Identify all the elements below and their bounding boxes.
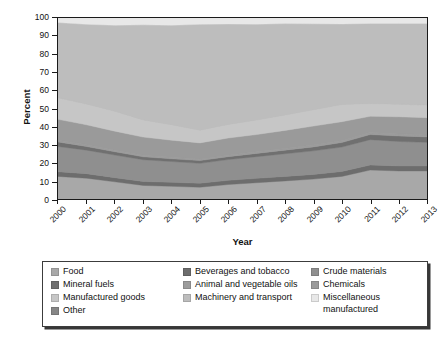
y-tick-label: 90	[40, 31, 49, 40]
y-tick-label: 10	[40, 177, 49, 186]
legend-label: Machinery and transport	[195, 292, 292, 304]
legend-label: Animal and vegetable oils	[195, 279, 298, 291]
x-tick-label: 2011	[355, 204, 382, 231]
legend-label: Chemicals	[323, 279, 365, 291]
legend-label: Mineral fuels	[63, 279, 114, 291]
legend: FoodMineral fuelsManufactured goodsOther…	[42, 261, 428, 327]
legend-swatch	[311, 294, 319, 302]
legend-label: Other	[63, 305, 86, 317]
y-axis-tick-labels: 0102030405060708090100	[24, 17, 52, 200]
x-tick-label: 2013	[412, 204, 439, 231]
y-tick-label: 40	[40, 123, 49, 132]
legend-swatch	[51, 307, 59, 315]
legend-item[interactable]: Animal and vegetable oils	[183, 279, 298, 291]
legend-item[interactable]: Crude materials	[311, 266, 387, 278]
y-tick-label: 60	[40, 86, 49, 95]
y-tick-label: 30	[40, 141, 49, 150]
x-tick-label: 2001	[70, 204, 97, 231]
plot-area	[57, 17, 428, 200]
legend-swatch	[183, 281, 191, 289]
legend-swatch	[51, 268, 59, 276]
legend-item[interactable]: Food	[51, 266, 84, 278]
legend-item[interactable]: Machinery and transport	[183, 292, 292, 304]
legend-swatch	[311, 268, 319, 276]
chart-page: Percent 0102030405060708090100 200020012…	[0, 0, 444, 355]
y-tick-label: 50	[40, 104, 49, 113]
legend-item[interactable]: Other	[51, 305, 86, 317]
x-tick-label: 2007	[241, 204, 268, 231]
legend-label: Food	[63, 266, 84, 278]
legend-swatch	[51, 294, 59, 302]
x-tick-label: 2000	[41, 204, 68, 231]
x-tick-label: 2010	[327, 204, 354, 231]
x-tick-label: 2002	[98, 204, 125, 231]
y-tick-label: 20	[40, 159, 49, 168]
legend-item[interactable]: Manufactured goods	[51, 292, 145, 304]
x-tick-label: 2003	[127, 204, 154, 231]
legend-swatch	[311, 281, 319, 289]
x-tick-label: 2006	[212, 204, 239, 231]
y-tick-label: 0	[44, 196, 49, 205]
x-tick-label: 2009	[298, 204, 325, 231]
legend-grid: FoodMineral fuelsManufactured goodsOther…	[43, 262, 427, 326]
legend-label: Beverages and tobacco	[195, 266, 290, 278]
stacked-area-series	[58, 18, 427, 199]
y-tick-label: 100	[35, 13, 49, 22]
legend-swatch	[51, 281, 59, 289]
x-axis-tick-labels: 2000200120022003200420052006200720082009…	[57, 204, 428, 234]
x-tick-label: 2005	[184, 204, 211, 231]
x-tick-label: 2008	[269, 204, 296, 231]
legend-label: Manufactured goods	[63, 292, 145, 304]
legend-item[interactable]: Miscellaneous manufactured	[311, 292, 380, 315]
y-tick-label: 70	[40, 68, 49, 77]
legend-swatch	[183, 268, 191, 276]
stacked-area-chart: Percent 0102030405060708090100 200020012…	[0, 0, 444, 256]
x-axis-title: Year	[57, 236, 428, 247]
x-tick-label: 2004	[155, 204, 182, 231]
legend-item[interactable]: Beverages and tobacco	[183, 266, 290, 278]
legend-item[interactable]: Chemicals	[311, 279, 365, 291]
legend-item[interactable]: Mineral fuels	[51, 279, 114, 291]
legend-swatch	[183, 294, 191, 302]
legend-label: Crude materials	[323, 266, 387, 278]
x-tick-label: 2012	[384, 204, 411, 231]
legend-label: Miscellaneous manufactured	[323, 292, 380, 315]
y-tick-label: 80	[40, 49, 49, 58]
